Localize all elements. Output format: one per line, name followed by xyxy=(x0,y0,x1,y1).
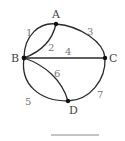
node-a xyxy=(54,22,58,26)
node-label-a: A xyxy=(51,8,61,21)
edge-3 xyxy=(56,24,105,58)
edge-label-6: 6 xyxy=(54,68,60,79)
node-label-b: B xyxy=(11,52,19,65)
edge-label-2: 2 xyxy=(48,42,54,53)
edge-label-7: 7 xyxy=(97,89,103,100)
edge-5 xyxy=(23,58,68,101)
graph-diagram: A B C D 1 2 3 4 5 6 7 xyxy=(0,0,125,141)
node-label-c: C xyxy=(109,52,117,65)
node-c xyxy=(103,56,107,60)
node-label-d: D xyxy=(69,104,78,117)
edge-label-5: 5 xyxy=(25,96,31,107)
edge-label-4: 4 xyxy=(65,46,71,57)
edge-label-3: 3 xyxy=(87,26,93,37)
edge-label-1: 1 xyxy=(26,27,32,38)
node-d xyxy=(66,99,70,103)
node-b xyxy=(22,56,27,61)
edge-6 xyxy=(24,58,68,101)
